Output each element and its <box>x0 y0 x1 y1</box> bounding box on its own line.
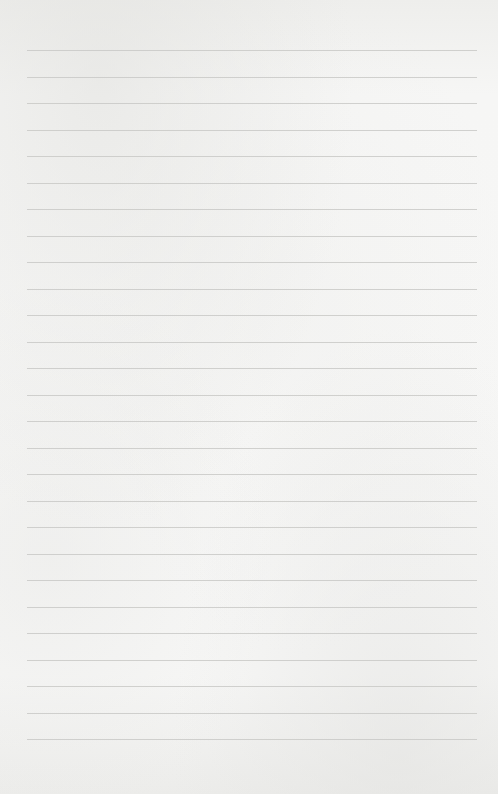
ruled-line <box>27 580 477 581</box>
ruled-line <box>27 50 477 51</box>
ruled-line <box>27 262 477 263</box>
ruled-line <box>27 527 477 528</box>
ruled-line <box>27 448 477 449</box>
ruled-line <box>27 236 477 237</box>
ruled-line <box>27 315 477 316</box>
ruled-line <box>27 421 477 422</box>
ruled-line <box>27 474 477 475</box>
ruled-line <box>27 156 477 157</box>
ruled-line <box>27 209 477 210</box>
ruled-line <box>27 607 477 608</box>
ruled-line <box>27 395 477 396</box>
ruled-line <box>27 289 477 290</box>
ruled-line <box>27 713 477 714</box>
ruled-line <box>27 342 477 343</box>
ruled-line <box>27 103 477 104</box>
ruled-line <box>27 130 477 131</box>
ruled-line <box>27 368 477 369</box>
ruled-line <box>27 501 477 502</box>
ruled-line <box>27 660 477 661</box>
ruled-line <box>27 686 477 687</box>
ruled-line <box>27 633 477 634</box>
ruled-line <box>27 554 477 555</box>
ruled-line <box>27 739 477 740</box>
ruled-line <box>27 77 477 78</box>
ruled-line <box>27 183 477 184</box>
lined-paper-sheet <box>0 0 498 794</box>
